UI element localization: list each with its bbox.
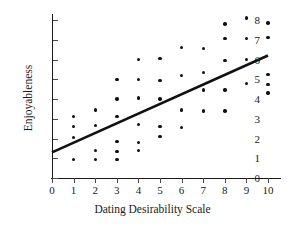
- data-point: [266, 21, 269, 24]
- data-point: [180, 108, 183, 111]
- data-point: [115, 150, 118, 153]
- x-tick-label: 8: [222, 185, 228, 196]
- data-point: [94, 158, 97, 161]
- data-point: [158, 125, 161, 128]
- y-axis-label: Enjoyableness: [22, 18, 34, 178]
- data-point: [94, 108, 97, 111]
- x-tick-label: 5: [157, 185, 163, 196]
- x-tick-label: 7: [200, 185, 206, 196]
- x-tick-label: 3: [114, 185, 120, 196]
- x-tick-label: 10: [263, 185, 274, 196]
- data-point: [115, 140, 118, 143]
- data-point: [137, 96, 140, 99]
- x-tick-label: 6: [179, 185, 185, 196]
- data-point: [158, 79, 161, 82]
- x-axis-label: Dating Desirability Scale: [0, 203, 305, 215]
- scatter-plot-figure: 012345678 012345678910 Dating Desirabili…: [0, 0, 305, 227]
- y-tick-mark: [53, 178, 58, 179]
- x-tick-mark: [246, 178, 247, 183]
- x-tick-label: 1: [71, 185, 77, 196]
- x-tick-mark: [160, 178, 161, 183]
- x-tick-mark: [268, 178, 269, 183]
- data-point: [223, 59, 226, 62]
- data-point: [223, 109, 226, 112]
- x-tick-mark: [182, 178, 183, 183]
- data-point: [223, 88, 226, 91]
- x-tick-mark: [225, 178, 226, 183]
- data-point: [245, 82, 248, 85]
- x-tick-mark: [117, 178, 118, 183]
- data-point: [115, 78, 118, 81]
- x-tick-mark: [138, 178, 139, 183]
- x-tick-mark: [95, 178, 96, 183]
- data-point: [266, 83, 269, 86]
- data-point: [266, 36, 269, 39]
- data-point: [266, 73, 269, 76]
- data-point: [266, 91, 269, 94]
- data-point: [115, 158, 118, 161]
- data-point: [202, 71, 205, 74]
- x-tick-label: 0: [49, 185, 55, 196]
- data-point: [245, 16, 248, 19]
- data-point: [202, 109, 205, 112]
- data-point: [223, 22, 226, 25]
- x-tick-label: 9: [244, 185, 250, 196]
- x-tick-mark: [74, 178, 75, 183]
- x-tick-label: 4: [136, 185, 142, 196]
- data-point: [137, 78, 140, 81]
- data-point: [158, 135, 161, 138]
- plot-area: 012345678 012345678910: [52, 20, 268, 178]
- data-point: [137, 149, 140, 152]
- x-tick-mark: [203, 178, 204, 183]
- data-point: [202, 88, 205, 91]
- x-tick-label: 2: [92, 185, 98, 196]
- data-point: [94, 149, 97, 152]
- data-point: [158, 97, 161, 100]
- data-point: [158, 57, 161, 60]
- x-tick-mark: [52, 178, 53, 183]
- data-point: [115, 97, 118, 100]
